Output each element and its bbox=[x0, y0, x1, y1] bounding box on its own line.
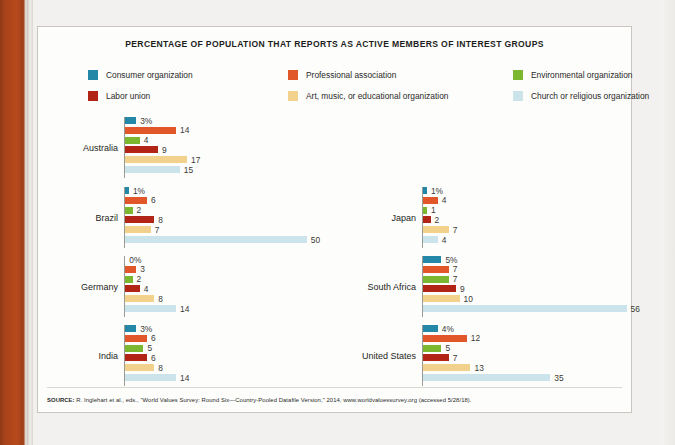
bar-value-label: 1 bbox=[427, 205, 436, 215]
bar-value-label: 2 bbox=[133, 205, 142, 215]
bar-value-label: 6 bbox=[147, 333, 156, 343]
panel-india: India3%656814 bbox=[38, 321, 335, 390]
bar-value-label: 56 bbox=[627, 304, 640, 314]
bar[interactable] bbox=[423, 374, 550, 381]
panel-plot-area: 3%656814 bbox=[124, 325, 334, 386]
bar[interactable] bbox=[125, 276, 132, 283]
bar[interactable] bbox=[423, 345, 441, 352]
bar[interactable] bbox=[423, 325, 438, 332]
source-divider bbox=[47, 387, 622, 388]
bar[interactable] bbox=[423, 354, 448, 361]
legend-label: Professional association bbox=[306, 70, 396, 80]
legend-item-consumer-organization[interactable]: Consumer organization bbox=[88, 70, 288, 80]
bar-value-label: 1% bbox=[427, 186, 443, 196]
panel-australia: Australia3%14491715 bbox=[38, 113, 335, 182]
panel-plot-area: 4%12571335 bbox=[422, 325, 632, 386]
legend-swatch-icon bbox=[288, 91, 298, 101]
bar[interactable] bbox=[125, 156, 187, 163]
panel-country-label: Japan bbox=[336, 213, 422, 223]
panel-germany: Germany0%324814 bbox=[38, 252, 335, 321]
bar[interactable] bbox=[125, 345, 143, 352]
bar[interactable] bbox=[125, 354, 147, 361]
bar[interactable] bbox=[125, 236, 307, 243]
bar-value-label: 6 bbox=[147, 195, 156, 205]
legend-item-church-or-religious-organization[interactable]: Church or religious organization bbox=[513, 91, 673, 101]
bar[interactable] bbox=[125, 305, 176, 312]
bar[interactable] bbox=[423, 276, 448, 283]
bar[interactable] bbox=[423, 216, 430, 223]
bar[interactable] bbox=[125, 325, 136, 332]
bar[interactable] bbox=[125, 137, 140, 144]
panel-country-label: Germany bbox=[38, 282, 124, 292]
bar-value-label: 9 bbox=[456, 284, 465, 294]
bar[interactable] bbox=[125, 146, 158, 153]
bar-value-label: 3% bbox=[136, 324, 152, 334]
bar[interactable] bbox=[423, 364, 470, 371]
bar[interactable] bbox=[423, 236, 438, 243]
panel-japan: Japan1%41274 bbox=[336, 183, 633, 252]
bar[interactable] bbox=[423, 295, 459, 302]
page-gutter-line bbox=[30, 0, 33, 445]
bar-value-label: 9 bbox=[158, 145, 167, 155]
bar[interactable] bbox=[423, 226, 448, 233]
bar[interactable] bbox=[125, 117, 136, 124]
bar-value-label: 2 bbox=[133, 274, 142, 284]
bar[interactable] bbox=[423, 335, 467, 342]
bar-value-label: 15 bbox=[180, 165, 193, 175]
bar-value-label: 3 bbox=[136, 264, 145, 274]
bar-value-label: 7 bbox=[449, 264, 458, 274]
panel-plot-area: 5%7791056 bbox=[422, 256, 632, 317]
panel-plot-area: 3%14491715 bbox=[124, 117, 334, 178]
chart-panels: Australia3%14491715Brazil1%628750Germany… bbox=[38, 113, 633, 389]
legend-swatch-icon bbox=[513, 91, 523, 101]
bar[interactable] bbox=[125, 335, 147, 342]
bar[interactable] bbox=[125, 197, 147, 204]
bar-value-label: 5 bbox=[143, 343, 152, 353]
bar-value-label: 2 bbox=[431, 215, 440, 225]
bar[interactable] bbox=[423, 266, 448, 273]
bar[interactable] bbox=[125, 266, 136, 273]
bar[interactable] bbox=[125, 127, 176, 134]
bar-value-label: 6 bbox=[147, 353, 156, 363]
legend-swatch-icon bbox=[288, 70, 298, 80]
bar[interactable] bbox=[423, 256, 441, 263]
panel-brazil: Brazil1%628750 bbox=[38, 183, 335, 252]
panel-plot-area: 1%41274 bbox=[422, 187, 632, 248]
panel-country-label: Australia bbox=[38, 143, 124, 153]
bar[interactable] bbox=[125, 207, 132, 214]
bar[interactable] bbox=[423, 285, 456, 292]
legend-item-art-music-or-educational-organization[interactable]: Art, music, or educational organization bbox=[288, 91, 513, 101]
legend-label: Church or religious organization bbox=[531, 91, 649, 101]
legend-item-labor-union[interactable]: Labor union bbox=[88, 91, 288, 101]
panel-country-label: United States bbox=[336, 351, 422, 361]
bar[interactable] bbox=[125, 295, 154, 302]
bar[interactable] bbox=[125, 374, 176, 381]
page-right-edge bbox=[661, 0, 675, 445]
bar-value-label: 5 bbox=[441, 343, 450, 353]
bar-value-label: 12 bbox=[467, 333, 480, 343]
legend-item-environmental-organization[interactable]: Environmental organization bbox=[513, 70, 673, 80]
bar-value-label: 10 bbox=[460, 294, 473, 304]
legend-item-professional-association[interactable]: Professional association bbox=[288, 70, 513, 80]
bar-value-label: 7 bbox=[151, 225, 160, 235]
bar-value-label: 4 bbox=[140, 135, 149, 145]
bar-value-label: 8 bbox=[154, 363, 163, 373]
bar[interactable] bbox=[125, 285, 140, 292]
source-prefix: SOURCE: bbox=[47, 397, 75, 403]
source-note: SOURCE: R. Inglehart et al., eds., "Worl… bbox=[47, 397, 622, 403]
bar-value-label: 50 bbox=[307, 235, 320, 245]
bar[interactable] bbox=[125, 166, 179, 173]
bar[interactable] bbox=[125, 226, 150, 233]
bar-value-label: 7 bbox=[449, 274, 458, 284]
bar[interactable] bbox=[125, 216, 154, 223]
panel-country-label: India bbox=[38, 351, 124, 361]
bar[interactable] bbox=[423, 305, 626, 312]
bar-value-label: 4 bbox=[438, 235, 447, 245]
bar[interactable] bbox=[125, 364, 154, 371]
bar-value-label: 4 bbox=[438, 195, 447, 205]
panel-united-states: United States4%12571335 bbox=[336, 321, 633, 390]
bar-value-label: 1% bbox=[129, 186, 145, 196]
bar[interactable] bbox=[423, 197, 438, 204]
legend-label: Art, music, or educational organization bbox=[306, 91, 448, 101]
bar-value-label: 13 bbox=[470, 363, 483, 373]
